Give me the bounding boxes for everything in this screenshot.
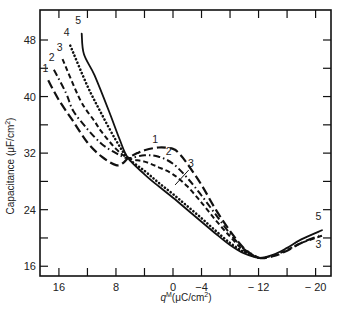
curve-number-label: 2: [166, 145, 172, 157]
curve-number-label: 1: [42, 62, 48, 74]
curve-number-label: 5: [316, 210, 322, 222]
curve-2: [54, 70, 259, 258]
y-tick-label: 32: [24, 147, 36, 159]
curve-4: [70, 46, 258, 258]
x-tick-label: 16: [53, 281, 65, 293]
curve-5: [82, 34, 322, 258]
axis-tick-labels: 1680−4− 12− 204840322416: [24, 34, 327, 293]
curve-number-label: 3: [57, 41, 63, 53]
curve-number-label: 5: [75, 14, 81, 26]
capacitance-chart: 1680−4− 12− 204840322416 1234512353 qM(μ…: [0, 0, 337, 318]
curve-number-label: 3: [188, 157, 194, 169]
curve-1: [48, 80, 319, 258]
y-tick-label: 48: [24, 34, 36, 46]
x-axis-title: qM(μC/cm2): [160, 291, 211, 303]
x-tick-label: − 20: [305, 281, 327, 293]
curve-number-label: 1: [152, 133, 158, 145]
curve-number-label: 2: [49, 51, 55, 63]
y-tick-label: 16: [24, 260, 36, 272]
curve-number-label: 3: [316, 238, 322, 250]
y-tick-label: 40: [24, 91, 36, 103]
curve-number-label: 4: [64, 26, 70, 38]
y-tick-label: 24: [24, 204, 36, 216]
y-axis-title: Capacitance (μF/cm2): [4, 118, 16, 215]
x-tick-label: 8: [113, 281, 119, 293]
data-curves: [48, 34, 322, 259]
curve-number-labels: 1234512353: [42, 14, 321, 249]
x-tick-label: − 12: [248, 281, 270, 293]
